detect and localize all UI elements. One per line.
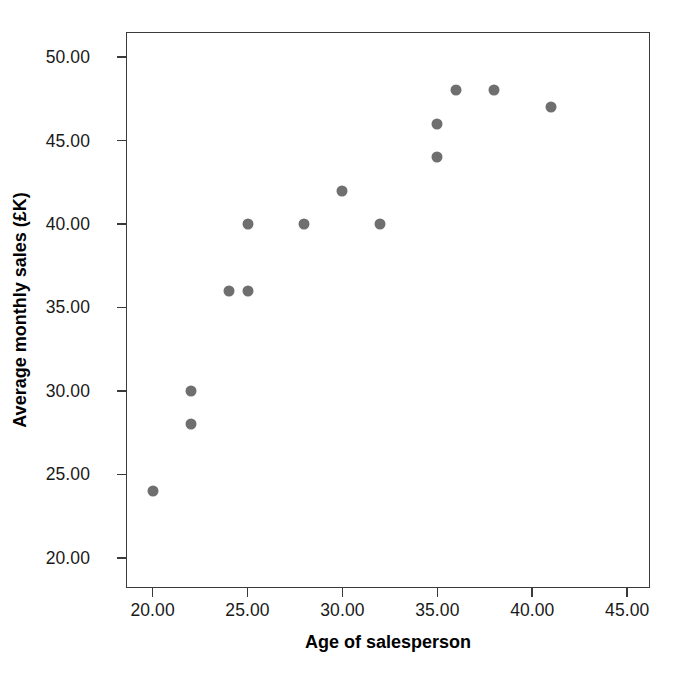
y-tick-mark bbox=[117, 390, 126, 392]
plot-frame bbox=[126, 32, 650, 588]
x-axis-title: Age of salesperson bbox=[126, 632, 650, 653]
x-tick-mark bbox=[626, 588, 628, 597]
y-tick-mark bbox=[117, 557, 126, 559]
x-tick-label: 40.00 bbox=[477, 600, 587, 621]
y-tick-mark bbox=[117, 223, 126, 225]
x-tick-label: 30.00 bbox=[287, 600, 397, 621]
x-tick-label: 20.00 bbox=[98, 600, 208, 621]
y-tick-mark bbox=[117, 307, 126, 309]
x-tick-label: 35.00 bbox=[382, 600, 492, 621]
y-tick-mark bbox=[117, 474, 126, 476]
x-tick-mark bbox=[342, 588, 344, 597]
scatter-chart: 20.0025.0030.0035.0040.0045.0050.00 20.0… bbox=[0, 0, 685, 680]
x-tick-mark bbox=[437, 588, 439, 597]
x-tick-mark bbox=[531, 588, 533, 597]
y-axis-title: Average monthly sales (£K) bbox=[10, 192, 31, 427]
y-axis-title-wrap: Average monthly sales (£K) bbox=[0, 32, 40, 588]
y-tick-mark bbox=[117, 140, 126, 142]
x-tick-label: 25.00 bbox=[193, 600, 303, 621]
x-tick-mark bbox=[247, 588, 249, 597]
x-tick-label: 45.00 bbox=[572, 600, 682, 621]
x-tick-mark bbox=[152, 588, 154, 597]
y-tick-mark bbox=[117, 56, 126, 58]
